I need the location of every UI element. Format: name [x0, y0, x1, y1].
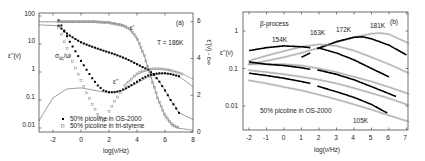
data-point — [111, 91, 113, 93]
data-point — [164, 72, 166, 74]
data-point — [69, 41, 71, 43]
b-xtick-2: 2 — [317, 134, 321, 141]
data-point — [80, 41, 82, 43]
b-series-163K — [248, 44, 410, 74]
b-xtick-4: 4 — [351, 134, 355, 141]
data-point — [125, 85, 127, 87]
data-point — [172, 103, 174, 105]
data-point — [63, 41, 65, 43]
data-point — [133, 62, 135, 64]
data-point — [133, 82, 135, 84]
data-point — [80, 60, 82, 62]
panel-a-plot-area — [39, 19, 193, 130]
data-point — [102, 89, 104, 91]
data-point — [69, 35, 71, 37]
b-temp-181K: 181K — [370, 22, 386, 29]
data-point — [60, 24, 62, 26]
a-ytick-1: 1 — [31, 65, 35, 72]
data-point — [111, 105, 113, 107]
b-xtick--2: -2 — [246, 134, 252, 141]
data-point — [100, 49, 102, 51]
data-point — [116, 54, 118, 56]
data-point — [77, 55, 79, 57]
data-point — [130, 60, 132, 62]
b-data-line — [317, 37, 406, 55]
data-point — [158, 81, 160, 83]
data-point — [158, 72, 160, 74]
a-xtick-6: 6 — [163, 136, 167, 143]
data-point — [72, 46, 74, 48]
data-point — [130, 84, 132, 86]
data-point — [102, 50, 104, 52]
data-point — [164, 89, 166, 91]
a-ytick-0.1: 0.1 — [26, 93, 35, 100]
data-point — [80, 79, 82, 81]
legend-marker-open-square — [62, 125, 65, 128]
data-point — [161, 72, 163, 74]
b-data-line — [302, 53, 311, 57]
b-temp-163K: 163K — [310, 29, 326, 36]
figure: 100 10 1 0.1 0.01 6 4 2 0 -2 0 2 4 6 8 l… — [0, 0, 425, 161]
data-point — [167, 73, 169, 75]
b-temp-105K: 105K — [353, 117, 369, 124]
data-point — [175, 107, 177, 109]
data-point — [114, 100, 116, 102]
data-point — [142, 77, 144, 79]
data-point — [108, 91, 110, 93]
data-point — [156, 77, 158, 79]
data-point — [170, 99, 172, 101]
b-xtick-5: 5 — [369, 134, 373, 141]
data-point — [142, 66, 144, 68]
data-point — [66, 33, 68, 35]
a-yrtick-2: 2 — [197, 91, 201, 98]
a-xtick-0: 0 — [79, 136, 83, 143]
data-point — [74, 38, 76, 40]
panel-a: 100 10 1 0.1 0.01 6 4 2 0 -2 0 2 4 6 8 l… — [8, 10, 213, 156]
data-point — [88, 98, 90, 100]
data-point — [77, 40, 79, 42]
a-ytick-0.01: 0.01 — [22, 121, 35, 128]
data-point — [136, 63, 138, 65]
data-point — [60, 28, 62, 30]
data-point — [128, 86, 130, 88]
b-panel-label: (b) — [390, 18, 398, 26]
b-series-135K — [249, 62, 396, 97]
data-point — [170, 73, 172, 75]
data-point — [139, 79, 141, 81]
data-point — [88, 45, 90, 47]
b-series-154K — [249, 46, 389, 77]
b-ytick-0.01: 0.01 — [225, 102, 238, 109]
b-ylabel: ε''(ν) — [220, 49, 233, 57]
data-point — [144, 76, 146, 78]
data-point — [119, 55, 121, 57]
a-yrtick-0: 0 — [197, 128, 201, 135]
b-ytick-1: 1 — [234, 27, 238, 34]
data-point — [91, 103, 93, 105]
a-ylabel: ε''(ν) — [8, 52, 21, 60]
a-xtick--2: -2 — [50, 136, 56, 143]
data-point — [74, 67, 76, 69]
data-point — [72, 36, 74, 38]
data-point — [60, 33, 62, 35]
b-xtick-6: 6 — [386, 134, 390, 141]
data-point — [116, 91, 118, 93]
data-point — [172, 74, 174, 76]
data-point — [91, 46, 93, 48]
a-ytick-10: 10 — [28, 37, 36, 44]
data-point — [72, 61, 74, 63]
data-point — [139, 65, 141, 67]
data-point — [108, 110, 110, 112]
data-point — [77, 73, 79, 75]
data-point — [153, 73, 155, 75]
data-point — [97, 48, 99, 50]
a-eps-prime-label: ε' — [130, 24, 134, 31]
data-point — [63, 30, 65, 32]
a-series-1 — [58, 19, 180, 93]
data-point — [167, 94, 169, 96]
b-temp-172K: 172K — [336, 26, 352, 33]
data-point — [105, 90, 107, 92]
data-point — [114, 53, 116, 55]
data-point — [125, 58, 127, 60]
b-series-172K — [302, 37, 407, 57]
data-point — [58, 25, 60, 27]
